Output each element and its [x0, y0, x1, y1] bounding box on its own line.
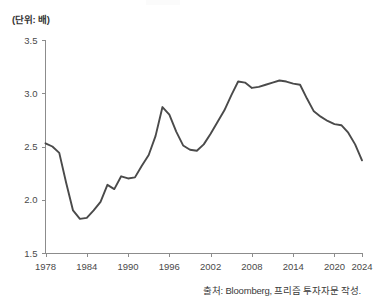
x-axis-ticks: 197819841990199620022008201420202024: [35, 253, 373, 272]
y-tick-label: 1.5: [24, 248, 37, 259]
x-tick-label: 1996: [159, 261, 180, 272]
data-series-line: [46, 80, 363, 218]
y-axis-ticks: 1.52.02.53.03.5: [24, 35, 45, 259]
x-tick-label: 2024: [351, 261, 372, 272]
y-tick-label: 3.0: [24, 88, 37, 99]
plot-area: 1.52.02.53.03.5 197819841990199620022008…: [0, 0, 375, 304]
x-tick-label: 2020: [324, 261, 345, 272]
x-tick-label: 1990: [117, 261, 138, 272]
y-tick-label: 2.0: [24, 194, 37, 205]
y-tick-label: 3.5: [24, 35, 37, 46]
stock-ratio-line-chart: (단위: 배) 1.52.02.53.03.5 1978198419901996…: [0, 0, 375, 304]
source-note: 출처: Bloomberg, 프리즘 투자자문 작성.: [203, 283, 361, 297]
x-tick-label: 2014: [283, 261, 304, 272]
y-tick-label: 2.5: [24, 141, 37, 152]
x-tick-label: 2002: [200, 261, 221, 272]
x-tick-label: 1984: [76, 261, 97, 272]
x-tick-label: 1978: [35, 261, 56, 272]
x-tick-label: 2008: [241, 261, 262, 272]
